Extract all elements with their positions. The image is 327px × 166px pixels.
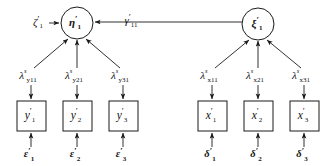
label-epsilon2: ε′2 <box>70 146 81 163</box>
label-delta1: δ′1 <box>204 146 216 163</box>
label-epsilon3: ε′3 <box>116 146 127 163</box>
label-lambda-x31: λsx31 <box>291 67 310 83</box>
sem-path-diagram: ζ′1 η′1 γ′11 ξ′1 λsy11 λsy21 λsy31 λsx11… <box>0 0 327 166</box>
path-lambda-y31 <box>86 39 120 68</box>
label-delta2: δ′2 <box>250 146 262 163</box>
path-lambda-y11 <box>34 39 68 68</box>
label-lambda-y31: λsy31 <box>110 67 129 83</box>
label-gamma11: γ′11 <box>124 12 138 29</box>
label-zeta1: ζ′1 <box>33 14 43 30</box>
label-lambda-x21: λsx21 <box>245 67 264 83</box>
label-lambda-x11: λsx11 <box>199 67 218 83</box>
label-delta3: δ′3 <box>296 146 308 163</box>
path-lambda-x11 <box>215 40 249 68</box>
diagram-canvas: ζ′1 η′1 γ′11 ξ′1 λsy11 λsy21 λsy31 λsx11… <box>0 0 327 166</box>
label-epsilon1: ε′1 <box>24 146 35 163</box>
label-lambda-y11: λsy11 <box>18 67 37 83</box>
label-lambda-y21: λsy21 <box>64 67 83 83</box>
path-lambda-x31 <box>267 40 301 68</box>
